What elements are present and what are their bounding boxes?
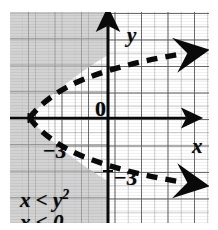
- inequality-1-exponent: 2: [62, 187, 69, 202]
- origin-label: 0: [95, 98, 106, 120]
- y-tick-label-neg3: −3: [114, 167, 137, 189]
- coordinate-plane: y x 0 −3 −3 x < y2 x < 0: [10, 12, 209, 223]
- inequality-1-text: x < y: [20, 188, 62, 212]
- inequality-label-2: x < 0: [20, 212, 63, 223]
- inequality-label-1: x < y2: [20, 188, 69, 211]
- x-tick-label-neg3: −3: [43, 140, 66, 162]
- x-axis-label: x: [192, 136, 203, 157]
- y-axis-label: y: [127, 25, 136, 46]
- figure-root: y x 0 −3 −3 x < y2 x < 0: [0, 0, 218, 230]
